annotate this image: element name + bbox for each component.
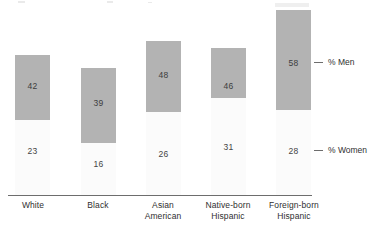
bar-value-men: 39 [81, 98, 116, 108]
bar-value-men: 48 [146, 70, 181, 80]
bar-segment-women: 26 [146, 112, 181, 195]
bar-value-women: 26 [146, 149, 181, 159]
bar-segment-women: 28 [276, 110, 311, 195]
bar-value-men: 58 [276, 58, 311, 68]
bar-value-men: 42 [15, 81, 50, 91]
bar-segment-men: 39 [81, 68, 116, 143]
bar-value-men: 46 [211, 81, 246, 91]
chart-container: 42 23 39 16 48 26 46 [0, 0, 378, 228]
x-axis-line [8, 195, 312, 196]
legend-leader-dash-icon [314, 62, 323, 63]
legend-label-women: % Women [328, 145, 367, 156]
bar-value-women: 28 [276, 146, 311, 156]
category-label-line1: Foreign-born [249, 200, 339, 211]
category-label-line2: Hispanic [249, 211, 339, 222]
bar-segment-men: 46 [211, 48, 246, 98]
bar-segment-women: 31 [211, 98, 246, 195]
bar-value-women: 23 [15, 146, 50, 156]
bar-segment-women: 23 [15, 120, 50, 195]
bar-segment-women: 16 [81, 143, 116, 195]
bar-value-women: 16 [81, 159, 116, 169]
bar-value-women: 31 [211, 142, 246, 152]
legend-label-men: % Men [328, 57, 354, 68]
bar-segment-men: 58 [276, 10, 311, 110]
bar-segment-men: 48 [146, 41, 181, 112]
bar-segment-men: 42 [15, 55, 50, 120]
legend-leader-dash-icon [314, 150, 323, 151]
category-label-foreign-born-hispanic: Foreign-born Hispanic [249, 200, 339, 221]
plot-area: 42 23 39 16 48 26 46 [0, 0, 378, 228]
